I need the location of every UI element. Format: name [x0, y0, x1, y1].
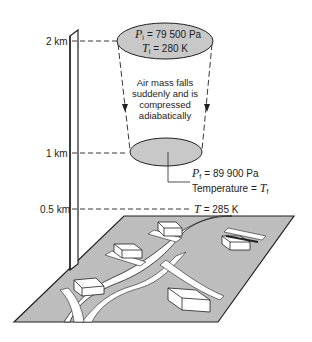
altitude-labels: 2 km 1 km 0.5 km: [40, 36, 192, 215]
altitude-pole: [70, 30, 78, 270]
svg-text:T= 285 K: T= 285 K: [194, 202, 239, 216]
altitude-2km-label: 2 km: [46, 36, 68, 47]
diagram-root: 2 km 1 km 0.5 km Pi= 79 500 Pa Ti= 280 K: [0, 0, 312, 342]
down-arrow-left-icon: [122, 104, 128, 112]
ground-state: T= 285 K: [194, 202, 239, 216]
pf-value: = 89 900 Pa: [204, 168, 259, 179]
altitude-0_5km-label: 0.5 km: [40, 204, 70, 215]
down-arrow-right-icon: [204, 104, 210, 112]
tf-label: Temperature =: [192, 183, 257, 194]
svg-text:Air mass falls: Air mass falls: [137, 77, 194, 88]
svg-text:Pf= 89 900 Pa: Pf= 89 900 Pa: [191, 166, 259, 180]
house-1: [158, 222, 182, 236]
t-ground-symbol: T: [194, 202, 202, 216]
svg-text:Temperature =Tf: Temperature =Tf: [192, 181, 268, 195]
svg-text:suddenly and is: suddenly and is: [132, 88, 198, 99]
altitude-1km-label: 1 km: [46, 148, 68, 159]
pi-value: = 79 500 Pa: [147, 29, 202, 40]
svg-text:compressed: compressed: [139, 99, 191, 110]
ground-plane: [14, 216, 294, 322]
final-ellipse: [130, 138, 202, 166]
t-ground-value: = 285 K: [204, 204, 239, 215]
ti-value: = 280 K: [153, 43, 188, 54]
process-caption: Air mass falls suddenly and is compresse…: [132, 77, 198, 121]
adiabatic-diagram: 2 km 1 km 0.5 km Pi= 79 500 Pa Ti= 280 K: [0, 0, 312, 342]
svg-text:adiabatically: adiabatically: [139, 110, 192, 121]
